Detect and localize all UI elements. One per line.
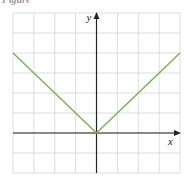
x-axis-label: x: [167, 135, 173, 147]
y-axis-label: y: [86, 11, 92, 23]
chart: xy: [0, 0, 188, 187]
